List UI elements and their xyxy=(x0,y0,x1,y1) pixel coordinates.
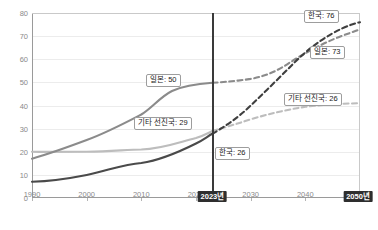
label-japan-2050: 일본: 73 xyxy=(310,46,345,59)
label-korea-2023: 한국: 26 xyxy=(215,147,250,160)
x-tick-2030: 2030 xyxy=(242,191,259,199)
y-tick-10: 10 xyxy=(10,171,28,179)
line-other-forecast xyxy=(212,103,360,131)
x-tick-1990: 1990 xyxy=(24,191,41,199)
label-other-2023: 기타 선진국: 29 xyxy=(134,117,192,130)
chart-container: 80 70 60 50 40 30 20 10 0 xyxy=(0,0,378,230)
y-tick-70: 70 xyxy=(10,33,28,41)
y-tick-20: 20 xyxy=(10,148,28,156)
y-tick-40: 40 xyxy=(10,102,28,110)
x-tick-2040: 2040 xyxy=(297,191,314,199)
line-korea-forecast xyxy=(212,22,360,134)
badge-2050: 2050년 xyxy=(344,191,373,202)
label-japan-2023: 일본: 50 xyxy=(146,74,181,87)
forecast-divider-2023 xyxy=(212,13,213,198)
y-tick-60: 60 xyxy=(10,56,28,64)
y-tick-80: 80 xyxy=(10,10,28,18)
x-tick-2010: 2010 xyxy=(133,191,150,199)
badge-2023: 2023년 xyxy=(198,191,227,202)
y-tick-30: 30 xyxy=(10,125,28,133)
x-tick-2000: 2000 xyxy=(78,191,95,199)
y-tick-50: 50 xyxy=(10,79,28,87)
plot-area: 80 70 60 50 40 30 20 10 0 xyxy=(32,13,360,198)
label-korea-2050: 한국: 76 xyxy=(304,10,339,23)
label-other-2050: 기타 선진국: 26 xyxy=(284,93,342,106)
